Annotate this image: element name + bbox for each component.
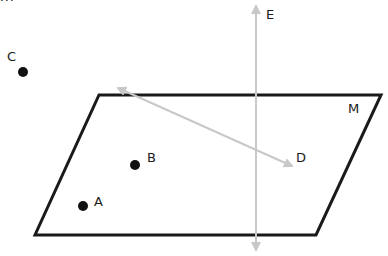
label-a: A — [94, 195, 103, 208]
label-c: C — [7, 50, 16, 63]
point-a — [78, 201, 88, 211]
geometry-diagram — [0, 0, 388, 256]
label-e: E — [266, 8, 274, 21]
line-d — [118, 88, 292, 166]
label-d: D — [296, 151, 306, 164]
point-b — [130, 160, 140, 170]
plane-m — [35, 95, 381, 235]
label-m: M — [348, 102, 359, 115]
label-b: B — [147, 151, 156, 164]
point-c — [18, 67, 28, 77]
top-fragment-text: m — [0, 0, 14, 3]
